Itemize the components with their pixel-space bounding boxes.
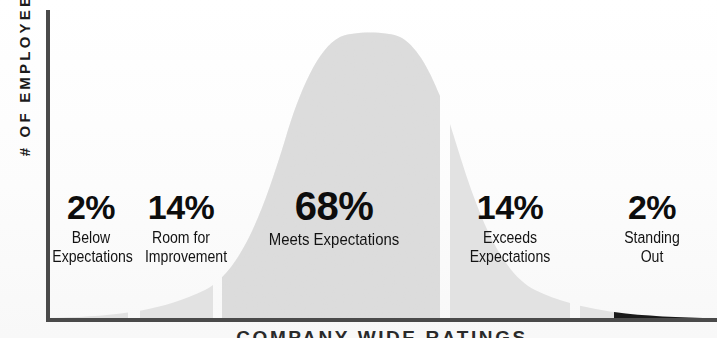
- bell-curve-graphic: [0, 0, 717, 338]
- segment-percent: 14%: [450, 190, 570, 224]
- segment-label-line2: Out: [606, 247, 698, 266]
- segment-label-meets-expectations: 68% Meets Expectations: [228, 186, 440, 249]
- segment-label-line1: Below: [52, 228, 129, 247]
- segment-percent: 14%: [140, 190, 222, 224]
- y-axis-label: # OF EMPLOYEES: [16, 0, 33, 189]
- segment-percent: 2%: [47, 190, 135, 224]
- bell-curve-chart: # OF EMPLOYEES COMPANY WIDE RATINGS 2% B…: [0, 0, 717, 338]
- scan-grain-overlay: [47, 33, 717, 319]
- segment-label-below-expectations: 2% Below Expectations: [47, 190, 135, 266]
- segment-percent: 68%: [228, 186, 440, 226]
- segment-label-line1: Exceeds: [457, 228, 563, 247]
- segment-label-line2: Improvement: [145, 247, 217, 266]
- segment-label-line1: Meets Expectations: [241, 230, 428, 249]
- segment-label-line2: Expectations: [52, 247, 129, 266]
- segment-percent: 2%: [600, 190, 704, 224]
- segment-label-exceeds-expectations: 14% Exceeds Expectations: [450, 190, 570, 266]
- segment-label-room-for-improvement: 14% Room for Improvement: [140, 190, 222, 266]
- segment-label-standing-out: 2% Standing Out: [600, 190, 704, 266]
- segment-label-line2: Expectations: [457, 247, 563, 266]
- segment-label-line1: Standing: [606, 228, 698, 247]
- x-axis-label: COMPANY WIDE RATINGS: [47, 327, 717, 338]
- segment-label-line1: Room for: [145, 228, 217, 247]
